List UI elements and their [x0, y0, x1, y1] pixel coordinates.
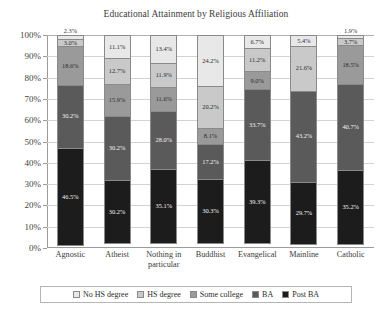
bar-segment-label: 40.7% [342, 124, 359, 130]
bar-segment[interactable]: 11.1% [104, 35, 131, 59]
bar-segment-label: 21.6% [296, 65, 313, 71]
bar-segment[interactable]: 21.6% [290, 46, 317, 92]
bar-group: 2.3%3.0%18.6%30.2%46.5%11.1%12.7%15.9%30… [47, 35, 374, 248]
bar-stack[interactable]: 13.4%11.9%11.6%28.0%35.1% [150, 35, 177, 248]
bar-segment-label: 20.2% [202, 104, 219, 110]
x-axis-tick-label: Mainline [281, 250, 328, 270]
y-axis-tick-label: 10% [5, 222, 41, 232]
legend-swatch-icon [137, 291, 144, 298]
bar-segment-label: 33.7% [249, 122, 266, 128]
bar-segment-label: 5.4% [297, 38, 310, 44]
legend-label: Some college [200, 290, 243, 299]
bar-stack[interactable]: 5.4%21.6%43.2%29.7% [290, 35, 317, 248]
bar-segment[interactable]: 11.9% [150, 63, 177, 88]
legend-item[interactable]: HS degree [137, 290, 181, 299]
bar-segment[interactable]: 13.4% [150, 35, 177, 64]
bar-column: 6.7%11.2%9.0%33.7%39.3% [234, 35, 281, 248]
bar-stack[interactable]: 2.3%3.0%18.6%30.2%46.5% [57, 35, 84, 248]
legend-item[interactable]: Some college [190, 290, 243, 299]
legend-swatch-icon [252, 291, 259, 298]
legend-swatch-icon [282, 291, 289, 298]
y-axis-tick [43, 227, 47, 228]
legend-item[interactable]: BA [252, 290, 273, 299]
x-axis-tick-label: Catholic [327, 250, 374, 270]
y-axis-tick-label: 70% [5, 94, 41, 104]
y-axis-tick-label: 80% [5, 73, 41, 83]
bar-segment-label: 46.5% [62, 194, 79, 200]
bar-segment-label: 43.2% [296, 133, 313, 139]
bar-segment[interactable]: 9.0% [244, 71, 271, 90]
bar-segment[interactable]: 6.7% [244, 35, 271, 49]
bar-segment[interactable]: 18.5% [337, 45, 364, 84]
bar-stack[interactable]: 6.7%11.2%9.0%33.7%39.3% [244, 35, 271, 248]
y-axis-tick [43, 184, 47, 185]
y-axis-tick [43, 99, 47, 100]
plot-area: 2.3%3.0%18.6%30.2%46.5%11.1%12.7%15.9%30… [47, 35, 374, 248]
bar-segment-label: 11.6% [156, 96, 172, 102]
bar-segment-label: 30.3% [202, 208, 219, 214]
bar-segment[interactable]: 46.5% [57, 148, 84, 246]
bar-segment[interactable]: 24.2% [197, 35, 224, 87]
bar-segment-label: 30.2% [109, 145, 126, 151]
bar-segment[interactable]: 30.2% [104, 180, 131, 244]
chart-container: Educational Attainment by Religious Affi… [0, 0, 392, 315]
bar-column: 11.1%12.7%15.9%30.2%30.2% [94, 35, 141, 248]
bar-segment-label: 6.7% [251, 39, 264, 45]
bar-segment[interactable]: 30.3% [197, 179, 224, 244]
bar-stack[interactable]: 11.1%12.7%15.9%30.2%30.2% [104, 35, 131, 248]
bar-segment-label: 2.3% [64, 28, 77, 34]
x-axis-tick-label: Evangelical [234, 250, 281, 270]
bar-segment[interactable]: 17.2% [197, 144, 224, 181]
bar-segment-label: 11.2% [249, 57, 265, 63]
bar-column: 24.2%20.2%8.1%17.2%30.3% [187, 35, 234, 248]
bar-segment[interactable]: 40.7% [337, 84, 364, 171]
bar-segment-label: 11.1% [109, 44, 125, 50]
y-axis-tick-label: 60% [5, 115, 41, 125]
bar-segment[interactable]: 18.6% [57, 46, 84, 85]
bar-segment-label: 30.2% [109, 209, 126, 215]
bar-column: 13.4%11.9%11.6%28.0%35.1% [140, 35, 187, 248]
bar-segment-label: 35.1% [156, 203, 173, 209]
chart-title: Educational Attainment by Religious Affi… [0, 9, 392, 19]
bar-segment[interactable]: 30.2% [104, 116, 131, 180]
bar-segment[interactable]: 11.6% [150, 87, 177, 112]
bar-segment[interactable]: 28.0% [150, 111, 177, 171]
bar-segment[interactable]: 39.3% [244, 160, 271, 244]
bar-segment[interactable]: 8.1% [197, 128, 224, 145]
bar-stack[interactable]: 1.9%3.7%18.5%40.7%35.2% [337, 35, 364, 248]
bar-segment[interactable]: 30.2% [57, 85, 84, 149]
bar-segment[interactable]: 12.7% [104, 58, 131, 85]
bar-segment-label: 15.9% [109, 97, 126, 103]
bar-segment-label: 24.2% [202, 58, 219, 64]
bar-segment[interactable]: 35.2% [337, 170, 364, 245]
bar-segment[interactable]: 29.7% [290, 182, 317, 245]
y-axis-tick [43, 163, 47, 164]
bar-segment-label: 39.3% [249, 199, 266, 205]
y-axis-tick-label: 90% [5, 51, 41, 61]
legend-label: No HS degree [83, 290, 128, 299]
x-axis-tick-label: Atheist [94, 250, 141, 270]
y-axis-tick-label: 50% [5, 137, 41, 147]
legend-item[interactable]: Post BA [282, 290, 319, 299]
bar-segment[interactable]: 15.9% [104, 84, 131, 118]
bar-segment-label: 18.5% [342, 62, 359, 68]
bar-stack[interactable]: 24.2%20.2%8.1%17.2%30.3% [197, 35, 224, 248]
y-axis-tick [43, 205, 47, 206]
bar-segment[interactable]: 11.2% [244, 48, 271, 72]
bar-segment-label: 8.1% [204, 133, 217, 139]
legend-item[interactable]: No HS degree [73, 290, 128, 299]
x-axis-tick-label: Buddhist [187, 250, 234, 270]
y-axis-tick-label: 20% [5, 200, 41, 210]
bar-segment[interactable]: 33.7% [244, 89, 271, 161]
x-axis-tick-label: Nothing in particular [140, 250, 187, 270]
legend-label: Post BA [292, 290, 319, 299]
bar-segment[interactable]: 35.1% [150, 169, 177, 244]
legend-label: HS degree [147, 290, 181, 299]
bar-column: 1.9%3.7%18.5%40.7%35.2% [327, 35, 374, 248]
bar-segment[interactable]: 20.2% [197, 86, 224, 129]
bar-segment[interactable]: 43.2% [290, 91, 317, 183]
y-axis-tick [43, 35, 47, 36]
y-axis-tick [43, 56, 47, 57]
y-axis-tick [43, 248, 47, 249]
bar-segment-label: 9.0% [251, 78, 264, 84]
